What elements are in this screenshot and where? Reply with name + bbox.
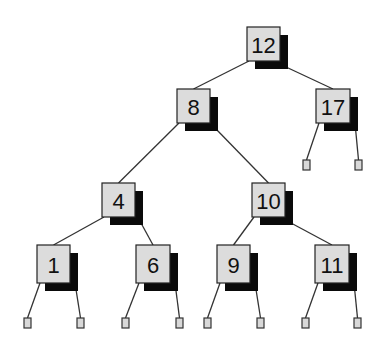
tree-edge xyxy=(306,283,319,318)
node-label: 10 xyxy=(256,189,280,214)
null-leaf-node xyxy=(354,318,361,328)
tree-node-6: 6 xyxy=(136,245,178,291)
null-leaf-node xyxy=(24,318,31,328)
node-label: 4 xyxy=(112,189,124,214)
null-leaf-node xyxy=(77,318,84,328)
tree-node-8: 8 xyxy=(177,89,218,131)
tree-edge xyxy=(119,123,180,183)
tree-edge xyxy=(291,223,332,245)
node-label: 17 xyxy=(321,95,345,120)
tree-node-4: 4 xyxy=(102,183,143,225)
null-leaf-node xyxy=(303,160,310,170)
tree-node-9: 9 xyxy=(217,245,258,291)
null-leaf-node xyxy=(204,318,211,328)
null-leaf-node xyxy=(122,318,129,328)
tree-edge xyxy=(141,223,153,245)
null-leaf-node xyxy=(176,318,183,328)
node-label: 8 xyxy=(187,95,199,120)
null-leaf-node xyxy=(257,318,264,328)
tree-edge xyxy=(234,217,255,245)
tree-edge xyxy=(194,61,250,89)
null-leaf-node xyxy=(302,318,309,328)
tree-node-17: 17 xyxy=(316,89,358,131)
tree-node-1: 1 xyxy=(37,245,78,291)
null-leaf-node xyxy=(355,160,362,170)
node-label: 9 xyxy=(227,253,239,278)
tree-nodes: 1281741016911 xyxy=(37,27,358,291)
tree-node-10: 10 xyxy=(252,183,293,225)
node-label: 11 xyxy=(321,253,344,278)
node-label: 12 xyxy=(251,33,275,58)
tree-edge xyxy=(54,217,105,245)
node-label: 6 xyxy=(147,253,159,278)
node-label: 1 xyxy=(47,253,59,278)
tree-edge xyxy=(126,283,140,318)
tree-edge xyxy=(216,129,269,183)
tree-edge xyxy=(307,123,320,160)
tree-edge xyxy=(286,67,333,89)
tree-edge xyxy=(208,283,221,318)
tree-edge xyxy=(28,283,41,318)
tree-node-11: 11 xyxy=(315,245,357,291)
binary-tree-diagram: 1281741016911 xyxy=(0,0,383,346)
tree-node-12: 12 xyxy=(247,27,288,69)
